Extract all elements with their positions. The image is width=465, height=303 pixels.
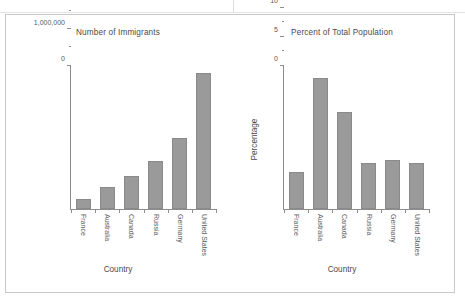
y-tick-label-percent: 5: [274, 26, 278, 33]
x-axis-tick-label: United States: [200, 214, 207, 256]
x-axis-tick-label: Germany: [176, 214, 183, 243]
x-axis-tick-label: United States: [413, 214, 420, 256]
x-label-cell-immigrants-2: Canada: [124, 214, 139, 269]
bar-series-immigrants: [71, 65, 216, 209]
x-tick-immigrants: [192, 209, 193, 213]
bar-immigrants-4[interactable]: [172, 138, 187, 209]
y-tick-immigrants: [67, 28, 71, 29]
plot-area-percent: 0510152025 FranceAustraliaCanadaRussiaGe…: [283, 65, 429, 210]
x-axis-tick-label: France: [80, 214, 87, 236]
x-label-cell-percent-0: France: [289, 214, 304, 269]
y-tick-label-immigrants: 1,000,000: [34, 18, 65, 25]
plot-area-immigrants: 01,000,0002,000,0003,000,0004,000,000 Fr…: [70, 65, 216, 210]
x-axis-tick-label: Canada: [341, 214, 348, 239]
y-tick-label-immigrants: 0: [61, 55, 65, 62]
x-tick-immigrants: [168, 209, 169, 213]
x-axis-tick-label: Russia: [152, 214, 159, 235]
x-label-cell-immigrants-1: Australia: [100, 214, 115, 269]
bar-immigrants-1[interactable]: [100, 187, 115, 209]
bar-percent-3[interactable]: [361, 163, 376, 209]
x-axis-title-percent: Country: [230, 265, 454, 274]
x-label-cell-percent-3: Russia: [361, 214, 376, 269]
bar-percent-4[interactable]: [385, 160, 400, 209]
bar-percent-5[interactable]: [409, 163, 424, 209]
x-tick-percent: [381, 209, 382, 213]
bar-immigrants-3[interactable]: [148, 161, 163, 209]
x-tick-percent: [357, 209, 358, 213]
x-tick-immigrants: [119, 209, 120, 213]
x-tick-immigrants: [95, 209, 96, 213]
x-axis-tick-label: Australia: [104, 214, 111, 241]
chart-title-immigrants: Number of Immigrants: [6, 28, 230, 37]
x-label-cell-immigrants-4: Germany: [172, 214, 187, 269]
x-label-cell-immigrants-3: Russia: [148, 214, 163, 269]
x-axis-tick-label: France: [293, 214, 300, 236]
x-tick-percent: [308, 209, 309, 213]
x-label-cell-percent-1: Australia: [313, 214, 328, 269]
y-tick-label-percent: 10: [270, 0, 278, 4]
y-tick-percent: [280, 36, 284, 37]
x-tick-percent: [405, 209, 406, 213]
charts-row: Number of Immigrants 01,000,0002,000,000…: [6, 15, 454, 292]
x-tick-percent: [429, 209, 430, 213]
x-label-cell-percent-2: Canada: [337, 214, 352, 269]
chart-title-percent: Percent of Total Population: [230, 28, 454, 37]
y-tick-percent: [280, 7, 284, 8]
figure-frame: Number of Immigrants 01,000,0002,000,000…: [5, 14, 455, 293]
y-tick-immigrants: [69, 46, 72, 47]
x-tick-immigrants: [216, 209, 217, 213]
x-tick-immigrants: [144, 209, 145, 213]
scan-artifact-horizontal-line: [0, 12, 465, 13]
x-axis-title-immigrants: Country: [6, 265, 230, 274]
x-axis-labels-percent: FranceAustraliaCanadaRussiaGermanyUnited…: [284, 214, 429, 269]
bar-series-percent: [284, 65, 429, 209]
x-tick-percent: [332, 209, 333, 213]
bar-percent-0[interactable]: [289, 172, 304, 209]
y-tick-percent: [282, 50, 285, 51]
x-axis-tick-label: Australia: [317, 214, 324, 241]
x-label-cell-immigrants-5: United States: [196, 214, 211, 269]
x-label-cell-immigrants-0: France: [76, 214, 91, 269]
x-label-cell-percent-4: Germany: [385, 214, 400, 269]
x-label-cell-percent-5: United States: [409, 214, 424, 269]
y-axis-title-percent: Percentage: [250, 110, 259, 170]
bar-percent-2[interactable]: [337, 112, 352, 209]
x-axis-labels-immigrants: FranceAustraliaCanadaRussiaGermanyUnited…: [71, 214, 216, 269]
bar-percent-1[interactable]: [313, 78, 328, 209]
y-tick-label-percent: 0: [274, 55, 278, 62]
bar-immigrants-0[interactable]: [76, 199, 91, 209]
x-axis-tick-label: Canada: [128, 214, 135, 239]
y-tick-percent: [282, 21, 285, 22]
chart-panel-immigrants: Number of Immigrants 01,000,0002,000,000…: [6, 15, 230, 292]
y-tick-immigrants: [69, 10, 72, 11]
x-tick-percent: [284, 209, 285, 213]
bar-immigrants-5[interactable]: [196, 73, 211, 209]
x-axis-tick-label: Russia: [365, 214, 372, 235]
bar-immigrants-2[interactable]: [124, 176, 139, 209]
x-axis-tick-label: Germany: [389, 214, 396, 243]
chart-panel-percent: Percent of Total Population Percentage 0…: [230, 15, 454, 292]
x-tick-immigrants: [71, 209, 72, 213]
